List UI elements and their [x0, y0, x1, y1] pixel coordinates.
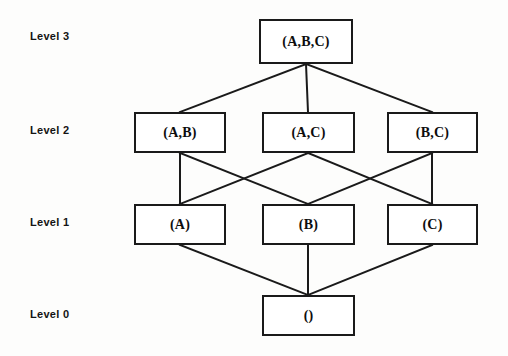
node-label-bc: (B,C)	[416, 125, 449, 141]
node-bc[interactable]: (B,C)	[387, 112, 478, 153]
level-label-level-3: Level 3	[30, 30, 69, 42]
level-label-level-1: Level 1	[30, 216, 69, 228]
node-label-a: (A)	[170, 217, 190, 233]
node-abc[interactable]: (A,B,C)	[259, 19, 353, 64]
node-label-ab: (A,B)	[163, 125, 196, 141]
node-empty[interactable]: ()	[262, 295, 355, 336]
level-label-level-2: Level 2	[30, 124, 69, 136]
edge-abc-to-ac	[306, 64, 308, 112]
node-ac[interactable]: (A,C)	[262, 112, 355, 153]
node-label-empty: ()	[304, 308, 314, 324]
node-label-abc: (A,B,C)	[282, 34, 329, 50]
edge-c-to-empty	[308, 245, 432, 295]
node-label-c: (C)	[422, 217, 442, 233]
node-b[interactable]: (B)	[262, 204, 355, 245]
level-label-level-0: Level 0	[30, 308, 69, 320]
edge-abc-to-ab	[180, 64, 306, 112]
node-c[interactable]: (C)	[387, 204, 478, 245]
node-ab[interactable]: (A,B)	[134, 112, 226, 153]
edge-abc-to-bc	[306, 64, 432, 112]
node-a[interactable]: (A)	[134, 204, 226, 245]
node-label-ac: (A,C)	[291, 125, 325, 141]
lattice-diagram: Level 3Level 2Level 1Level 0 (A,B,C)(A,B…	[0, 0, 508, 356]
edge-layer	[0, 0, 508, 356]
node-label-b: (B)	[299, 217, 318, 233]
edge-a-to-empty	[180, 245, 308, 295]
